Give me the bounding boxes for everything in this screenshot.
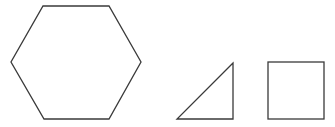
triangle-shape <box>177 63 233 119</box>
square-shape <box>268 62 324 119</box>
shapes-diagram <box>0 0 335 127</box>
hexagon-shape <box>11 6 141 119</box>
